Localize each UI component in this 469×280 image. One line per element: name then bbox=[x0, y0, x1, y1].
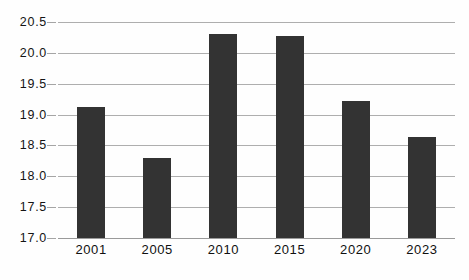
gridline bbox=[58, 22, 455, 23]
x-tick-label: 2023 bbox=[406, 242, 437, 257]
y-tick-mark bbox=[47, 84, 56, 85]
y-tick-label: 20.5 bbox=[20, 15, 47, 29]
bar bbox=[143, 158, 171, 238]
bar bbox=[209, 34, 237, 238]
y-tick-mark bbox=[47, 115, 56, 116]
y-tick-label: 17.5 bbox=[20, 200, 47, 214]
gridline bbox=[58, 238, 455, 239]
gridline bbox=[58, 115, 455, 116]
y-tick-label: 17.0 bbox=[20, 231, 47, 245]
y-tick-mark bbox=[47, 238, 56, 239]
gridline bbox=[58, 176, 455, 177]
bar bbox=[276, 36, 304, 238]
y-tick-label: 18.0 bbox=[20, 169, 47, 183]
gridline bbox=[58, 84, 455, 85]
y-tick-label: 20.0 bbox=[20, 46, 47, 60]
x-tick-label: 2001 bbox=[75, 242, 106, 257]
x-tick-label: 2020 bbox=[340, 242, 371, 257]
y-tick-mark bbox=[47, 22, 56, 23]
bar-chart: 17.017.518.018.519.019.520.020.5 2001200… bbox=[0, 0, 469, 280]
y-tick-mark bbox=[47, 145, 56, 146]
gridline bbox=[58, 53, 455, 54]
y-tick-label: 19.0 bbox=[20, 108, 47, 122]
x-tick-label: 2010 bbox=[208, 242, 239, 257]
y-tick-label: 18.5 bbox=[20, 138, 47, 152]
x-tick-label: 2015 bbox=[274, 242, 305, 257]
y-tick-mark bbox=[47, 176, 56, 177]
gridline bbox=[58, 145, 455, 146]
x-tick-label: 2005 bbox=[142, 242, 173, 257]
bar bbox=[408, 137, 436, 238]
plot-area bbox=[58, 22, 455, 238]
y-tick-mark bbox=[47, 53, 56, 54]
bar bbox=[342, 101, 370, 238]
y-tick-mark bbox=[47, 207, 56, 208]
y-axis: 17.017.518.018.519.019.520.020.5 bbox=[0, 22, 47, 238]
bar bbox=[77, 107, 105, 238]
y-tick-label: 19.5 bbox=[20, 77, 47, 91]
x-axis: 200120052010201520202023 bbox=[58, 242, 455, 268]
gridline bbox=[58, 207, 455, 208]
